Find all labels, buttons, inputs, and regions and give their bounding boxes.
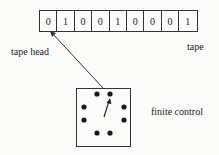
state-pointer bbox=[104, 101, 109, 117]
state-dots bbox=[81, 91, 126, 135]
diagram-lines bbox=[0, 0, 219, 155]
tape-head-arrow bbox=[52, 33, 103, 88]
pointer-head-icon bbox=[107, 98, 112, 104]
